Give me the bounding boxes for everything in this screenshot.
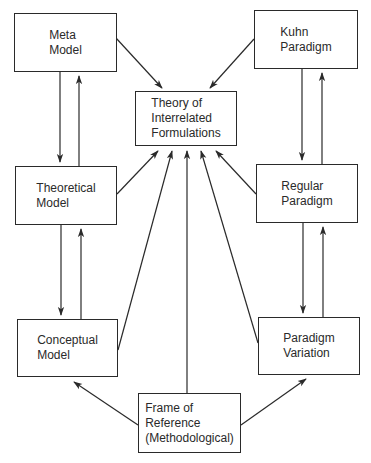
node-conceptual: Conceptual Model [17, 319, 118, 377]
arrow-kuhn-to-theory [210, 39, 254, 88]
arrow-conceptual-to-theory [118, 151, 172, 350]
node-label: Conceptual Model [37, 333, 98, 363]
arrow-theoretical-to-theory [117, 151, 158, 194]
arrow-meta-to-theory [116, 38, 162, 88]
arrow-frame-to-variation [241, 379, 306, 425]
arrow-regular-to-theory [216, 151, 256, 194]
node-label: Theoretical Model [36, 181, 95, 211]
arrow-variation-to-theory [201, 151, 258, 343]
node-variation: Paradigm Variation [258, 317, 360, 375]
node-label: Theory of Interrelated Formulations [151, 96, 220, 141]
node-theory: Theory of Interrelated Formulations [135, 91, 237, 146]
node-meta: Meta Model [14, 13, 117, 72]
node-label: Regular Paradigm [281, 179, 332, 209]
node-regular: Regular Paradigm [256, 164, 358, 223]
node-theoretical: Theoretical Model [15, 166, 117, 225]
node-label: Paradigm Variation [283, 331, 334, 361]
node-label: Meta Model [49, 28, 82, 58]
node-kuhn: Kuhn Paradigm [254, 10, 358, 69]
arrow-frame-to-conceptual [74, 382, 138, 425]
node-label: Kuhn Paradigm [280, 25, 331, 55]
node-label: Frame of Reference (Methodological) [145, 401, 234, 446]
node-frame: Frame of Reference (Methodological) [138, 393, 241, 453]
